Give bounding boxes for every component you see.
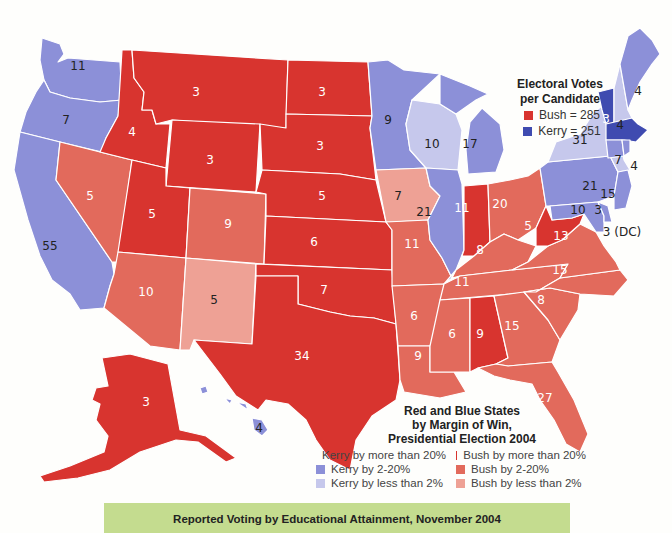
swatch-icon	[456, 479, 465, 488]
state-nd	[286, 60, 372, 116]
label-tn: 11	[454, 275, 469, 289]
margin-legend-title-3: Presidential Election 2004	[304, 432, 620, 446]
label-ct: 7	[614, 153, 622, 167]
label-id: 4	[128, 125, 136, 139]
label-ks: 6	[310, 235, 318, 249]
label-or: 7	[62, 113, 70, 127]
legend-bush-2-20: Bush by 2-20%	[456, 462, 586, 476]
label-sc: 8	[537, 293, 545, 307]
electoral-legend-title-1: Electoral Votes	[495, 77, 625, 92]
state-mt	[132, 50, 288, 128]
label-de: 3	[594, 203, 602, 217]
label-fl: 27	[537, 391, 552, 405]
electoral-legend-kerry: Kerry = 251	[499, 123, 625, 139]
electoral-legend-title-2: per Candidate	[495, 92, 625, 107]
bush-ev-label: Bush = 285	[539, 107, 600, 123]
label-wy: 3	[206, 153, 214, 167]
state-nm	[180, 258, 256, 350]
label-wa: 11	[70, 59, 85, 73]
legend-label: Bush by 2-20%	[471, 462, 549, 476]
label-mo: 11	[404, 237, 419, 251]
label-ms: 6	[448, 327, 456, 341]
label-az: 10	[138, 285, 153, 299]
label-mt: 3	[192, 85, 200, 99]
legend-bush-20plus: Bush by more than 20%	[456, 448, 586, 462]
label-nj: 15	[600, 187, 615, 201]
label-hi: 4	[255, 421, 263, 435]
legend-bush-lt2: Bush by less than 2%	[456, 476, 586, 490]
label-ri: 4	[630, 159, 638, 173]
legend-label: Bush by more than 20%	[463, 448, 586, 462]
label-pa: 21	[582, 179, 597, 193]
label-me: 4	[634, 84, 642, 98]
label-ca: 55	[42, 239, 57, 253]
label-la: 9	[414, 349, 422, 363]
swatch-icon	[456, 465, 465, 474]
label-co: 9	[224, 217, 232, 231]
legend-kerry-20plus: Kerry by more than 20%	[316, 448, 446, 462]
kerry-swatch	[523, 127, 532, 136]
label-mn: 9	[384, 113, 392, 127]
label-ak: 3	[142, 395, 150, 409]
label-il: 21	[416, 205, 431, 219]
electoral-legend-bush: Bush = 285	[499, 107, 625, 123]
label-dc: 3 (DC)	[603, 225, 641, 239]
legend-label: Kerry by more than 20%	[322, 448, 446, 462]
label-ne: 5	[318, 189, 326, 203]
label-oh: 20	[492, 197, 507, 211]
swatch-icon	[456, 451, 457, 460]
state-ks	[264, 216, 392, 270]
margin-legend-title-1: Red and Blue States	[304, 404, 620, 418]
label-va: 13	[553, 229, 568, 243]
kerry-ev-label: Kerry = 251	[538, 123, 600, 139]
label-mi: 17	[462, 137, 477, 151]
legend-label: Bush by less than 2%	[471, 476, 582, 490]
state-ak	[40, 354, 236, 482]
margin-legend-title-2: by Margin of Win,	[304, 418, 620, 432]
legend-label: Kerry by less than 2%	[331, 476, 443, 490]
legend-kerry-2-20: Kerry by 2-20%	[316, 462, 446, 476]
bush-swatch	[524, 111, 533, 120]
label-wi: 10	[424, 137, 439, 151]
label-nm: 5	[210, 293, 218, 307]
state-ri	[622, 140, 630, 156]
state-me	[620, 28, 660, 110]
label-ok: 7	[320, 283, 328, 297]
label-ga: 15	[504, 319, 519, 333]
table-title-banner: Reported Voting by Educational Attainmen…	[104, 503, 570, 533]
label-nv: 5	[86, 189, 94, 203]
label-wv: 5	[524, 219, 532, 233]
label-nd: 3	[318, 85, 326, 99]
label-sd: 3	[316, 139, 324, 153]
label-ky: 8	[476, 243, 484, 257]
label-al: 9	[476, 327, 484, 341]
swatch-icon	[316, 465, 325, 474]
label-md: 10	[570, 203, 585, 217]
label-in: 11	[454, 201, 469, 215]
label-tx: 34	[294, 349, 309, 363]
label-ut: 5	[148, 207, 156, 221]
banner-title: Reported Voting by Educational Attainmen…	[104, 512, 570, 526]
label-ar: 6	[410, 309, 418, 323]
margin-of-win-legend: Red and Blue States by Margin of Win, Pr…	[320, 404, 620, 490]
legend-label: Kerry by 2-20%	[331, 462, 410, 476]
state-az	[104, 252, 186, 350]
label-nc: 15	[552, 263, 567, 277]
label-ia: 7	[394, 189, 402, 203]
electoral-votes-legend: Electoral Votes per Candidate Bush = 285…	[495, 77, 625, 139]
swatch-icon	[316, 479, 325, 488]
legend-kerry-lt2: Kerry by less than 2%	[316, 476, 446, 490]
